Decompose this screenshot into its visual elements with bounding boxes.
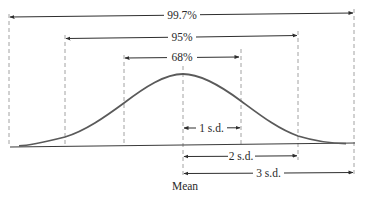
mean-label: Mean (172, 180, 198, 192)
sd-label-1: 1 s.d. (199, 122, 224, 134)
sd-marker-2: 2 s.d. (184, 150, 297, 162)
sd-marker-1: 1 s.d. (184, 122, 240, 134)
sd-label-2: 2 s.d. (229, 150, 254, 162)
bell-curve (19, 74, 346, 146)
interval-label-95: 95% (171, 31, 193, 43)
normal-distribution-diagram: 99.7% 95% 68% 1 s.d. 2 s.d. 3 s.d. Mean (0, 0, 365, 198)
baseline-axis (10, 143, 355, 147)
interval-label-68: 68% (171, 51, 193, 63)
interval-68: 68% (125, 51, 239, 63)
interval-99-7: 99.7% (10, 9, 353, 21)
sd-label-3: 3 s.d. (256, 167, 281, 179)
interval-95: 95% (66, 31, 297, 43)
sd-marker-3: 3 s.d. (184, 167, 353, 179)
interval-label-99-7: 99.7% (167, 9, 197, 21)
